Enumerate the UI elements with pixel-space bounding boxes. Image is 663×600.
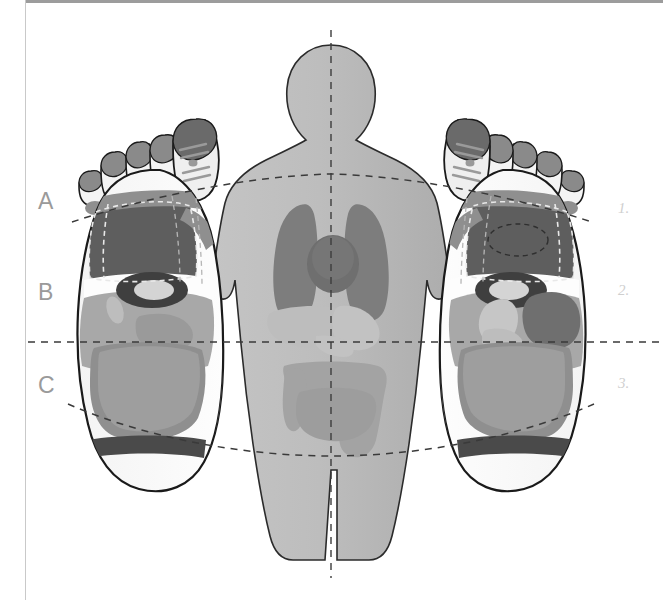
left-heart-reflex-core — [134, 280, 174, 300]
zone-label-a: A — [38, 188, 54, 215]
right-lung-chest-reflex — [466, 202, 574, 282]
left-intestine-inner — [98, 346, 200, 431]
reflexology-illustration — [0, 0, 663, 600]
body-organs — [267, 204, 389, 457]
big-toe-dot — [189, 160, 198, 167]
big-toe-dot — [466, 160, 475, 167]
right-intestine-inner — [463, 346, 565, 431]
right-liver-reflex — [522, 292, 580, 349]
toe-4-tip — [535, 152, 562, 177]
left-foot-sole — [77, 119, 230, 492]
zone-label-c: C — [38, 372, 55, 399]
zone-number-2: 2. — [618, 282, 629, 299]
right-heart-reflex-core — [489, 280, 529, 300]
heart-highlight — [312, 236, 354, 280]
zone-number-3: 3. — [618, 375, 629, 392]
right-foot-sole — [433, 119, 586, 492]
toe-4-tip — [101, 152, 128, 177]
zone-label-b: B — [38, 279, 54, 306]
zone-number-1: 1. — [618, 200, 629, 217]
left-lung-chest-reflex — [89, 202, 197, 282]
reflexology-chart: A B C 1. 2. 3. — [0, 0, 663, 600]
central-body-figure — [212, 30, 449, 578]
